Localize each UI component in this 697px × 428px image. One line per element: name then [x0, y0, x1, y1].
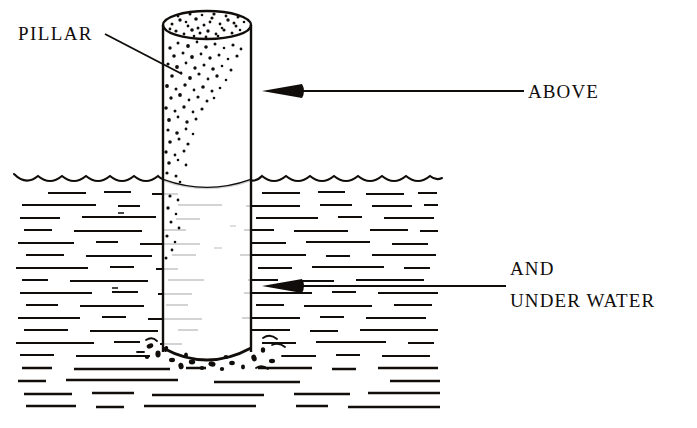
pillar-under-water [163, 180, 251, 361]
diagram-background [0, 0, 697, 428]
label-and: AND [510, 258, 554, 279]
label-above: ABOVE [528, 81, 599, 102]
pillar-above-water [163, 11, 251, 188]
label-pillar: PILLAR [18, 23, 93, 44]
diagram-canvas: PILLAR ABOVE AND UNDER WATER [0, 0, 697, 428]
label-under-water: UNDER WATER [510, 290, 655, 311]
pillar-top-face [163, 11, 251, 39]
pillar-water-diagram: PILLAR ABOVE AND UNDER WATER [0, 0, 697, 428]
